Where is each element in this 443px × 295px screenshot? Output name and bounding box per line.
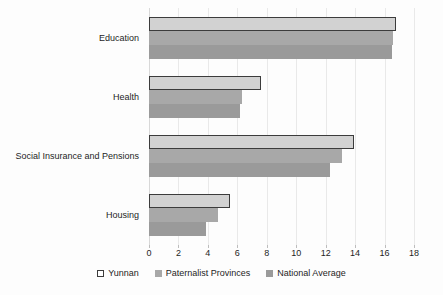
x-tick-label-10: 10 — [291, 248, 301, 258]
bar-row — [149, 163, 414, 177]
legend-item-national-average[interactable]: National Average — [266, 268, 345, 278]
bar-yunnan-health — [149, 76, 261, 90]
bar-row — [149, 104, 414, 118]
bar-yunnan-social-insurance-and-pensions — [149, 135, 354, 149]
bar-row — [149, 149, 414, 163]
y-axis-labels: EducationHealthSocial Insurance and Pens… — [0, 8, 145, 245]
bar-national-average-health — [149, 104, 240, 118]
gridline-18 — [414, 8, 415, 245]
bar-paternalist-provinces-education — [149, 31, 393, 45]
bar-row — [149, 45, 414, 59]
x-tick-label-18: 18 — [409, 248, 419, 258]
bar-row — [149, 135, 414, 149]
bar-group — [149, 76, 414, 118]
x-tick-label-12: 12 — [321, 248, 331, 258]
x-tick-label-2: 2 — [176, 248, 181, 258]
x-tick-label-8: 8 — [264, 248, 269, 258]
legend-label: National Average — [277, 268, 345, 278]
legend-swatch-icon — [266, 270, 273, 277]
bar-paternalist-provinces-housing — [149, 208, 218, 222]
legend-item-yunnan[interactable]: Yunnan — [97, 268, 139, 278]
plot-area — [149, 8, 414, 245]
x-tick-label-14: 14 — [350, 248, 360, 258]
y-axis-label-housing: Housing — [106, 210, 139, 220]
bar-yunnan-housing — [149, 194, 230, 208]
bar-row — [149, 194, 414, 208]
bar-row — [149, 76, 414, 90]
bar-row — [149, 222, 414, 236]
bar-group — [149, 194, 414, 236]
bar-national-average-education — [149, 45, 392, 59]
y-axis-label-education: Education — [99, 33, 139, 43]
bar-group — [149, 17, 414, 59]
x-tick-label-0: 0 — [146, 248, 151, 258]
bar-row — [149, 90, 414, 104]
legend-item-paternalist-provinces[interactable]: Paternalist Provinces — [155, 268, 251, 278]
bar-paternalist-provinces-social-insurance-and-pensions — [149, 149, 342, 163]
legend-label: Paternalist Provinces — [166, 268, 251, 278]
bar-chart: EducationHealthSocial Insurance and Pens… — [0, 0, 443, 295]
bar-group — [149, 135, 414, 177]
x-tick-label-16: 16 — [380, 248, 390, 258]
bar-national-average-housing — [149, 222, 206, 236]
legend-label: Yunnan — [108, 268, 139, 278]
chart-legend: YunnanPaternalist ProvincesNational Aver… — [0, 265, 443, 281]
y-axis-label-health: Health — [113, 92, 139, 102]
bar-yunnan-education — [149, 17, 396, 31]
bar-national-average-social-insurance-and-pensions — [149, 163, 330, 177]
legend-swatch-icon — [97, 270, 104, 277]
x-tick-label-6: 6 — [235, 248, 240, 258]
legend-swatch-icon — [155, 270, 162, 277]
y-axis-label-social-insurance-and-pensions: Social Insurance and Pensions — [15, 151, 139, 161]
x-axis: 024681012141618 — [149, 245, 414, 261]
bar-paternalist-provinces-health — [149, 90, 242, 104]
bar-row — [149, 208, 414, 222]
bar-row — [149, 17, 414, 31]
bar-row — [149, 31, 414, 45]
x-tick-label-4: 4 — [205, 248, 210, 258]
